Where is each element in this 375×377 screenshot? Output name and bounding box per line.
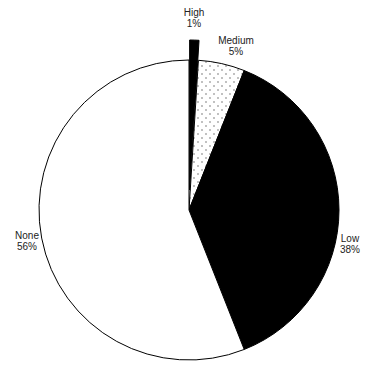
label-low-pct: 38%	[340, 244, 360, 255]
label-low-name: Low	[341, 233, 360, 244]
label-medium-name: Medium	[218, 35, 254, 46]
label-medium-pct: 5%	[229, 46, 244, 57]
pie-slices	[39, 40, 339, 360]
label-high-pct: 1%	[187, 18, 202, 29]
label-none-pct: 56%	[17, 241, 37, 252]
label-high-name: High	[184, 7, 205, 18]
pie-chart: High 1% Medium 5% Low 38% None 56%	[0, 0, 375, 377]
label-none-name: None	[15, 230, 39, 241]
